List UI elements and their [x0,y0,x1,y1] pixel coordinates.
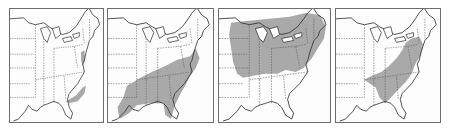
state-border [284,76,286,100]
state-border [158,44,190,48]
state-border [83,29,85,45]
great-lake [370,27,381,43]
great-lake [52,27,60,39]
state-border [74,46,77,68]
range-map-3: Northern range: Great Lakes, Ohio valley… [218,8,331,123]
state-border [35,72,84,80]
great-lake [40,27,50,43]
great-lake [156,27,166,39]
great-lake [62,37,72,43]
great-lake [179,33,187,39]
great-lake [167,37,178,43]
great-lake [395,37,406,43]
shaded-range-area [364,37,423,104]
state-border [190,29,192,45]
range-map-4: Appalachian range: Pennsylvania south th… [335,8,441,123]
great-lake [142,27,153,43]
state-border [54,44,83,48]
coastline-outline [336,9,436,121]
range-map-1: Coastal range: Atlantic coast Maryland/V… [9,8,104,123]
coastline-outline [10,9,100,121]
state-border [64,76,66,100]
great-lake [73,33,80,39]
great-lake [383,27,392,39]
range-map-2: Southeastern range: lower Mississippi va… [107,8,214,123]
great-lake [406,33,414,39]
